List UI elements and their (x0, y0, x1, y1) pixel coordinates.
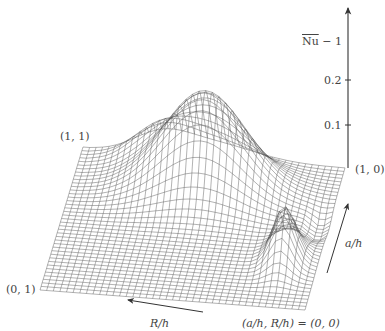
corner-label-1-1: (1, 1) (60, 131, 90, 142)
r-h-label: R/h (150, 318, 169, 329)
corner-label-0-1: (0, 1) (6, 284, 36, 295)
a-h-label: a/h (345, 238, 362, 249)
z-tick-label-01: 0.1 (324, 120, 342, 131)
r-h-arrow (128, 300, 203, 312)
corner-label-1-0: (1, 0) (355, 164, 385, 175)
z-axis-label-rest: − 1 (319, 35, 342, 48)
z-tick-label-02: 0.2 (324, 75, 342, 86)
mesh-lines (40, 91, 345, 310)
wireframe-surface (40, 91, 345, 310)
surface-plot (0, 0, 385, 331)
z-axis-label: Nu − 1 (302, 36, 342, 47)
z-axis-label-nu: Nu (302, 35, 319, 48)
origin-label: (a/h, R/h) = (0, 0) (242, 318, 340, 329)
